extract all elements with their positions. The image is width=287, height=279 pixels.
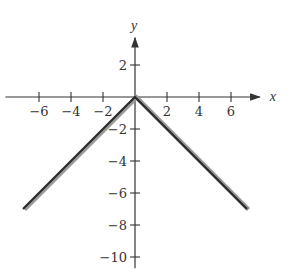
x-tick-label: −6 (29, 104, 48, 119)
x-tick-label: 4 (195, 104, 203, 119)
chart: −6−4−22462−2−4−6−8−10 x y (0, 0, 287, 279)
x-tick-label: 2 (163, 104, 171, 119)
y-tick-label: 2 (119, 58, 127, 73)
axes (5, 38, 259, 268)
y-tick-label: −4 (108, 154, 127, 169)
y-tick-label: −6 (108, 186, 127, 201)
x-tick-label: −4 (61, 104, 80, 119)
y-tick-label: −8 (108, 218, 127, 233)
x-tick-label: 6 (227, 104, 235, 119)
x-axis-label: x (269, 89, 277, 104)
y-tick-label: −10 (100, 250, 127, 265)
x-tick-label: −2 (93, 104, 112, 119)
y-axis-label: y (129, 18, 138, 33)
ticks: −6−4−22462−2−4−6−8−10 (29, 58, 235, 265)
